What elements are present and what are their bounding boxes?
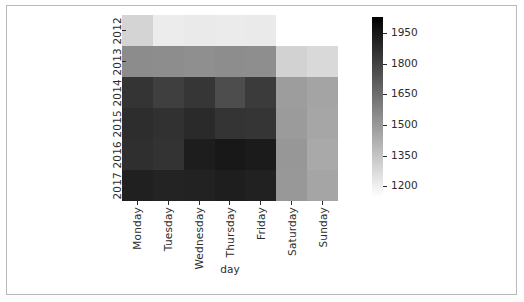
colorbar-tick-label: 1500	[391, 119, 418, 130]
colorbar-tick-label: 1200	[391, 180, 418, 191]
x-axis-tick-label: Wednesday	[194, 207, 205, 270]
heatmap-cell	[245, 15, 276, 46]
x-axis-tick-mark	[229, 201, 230, 205]
x-axis-title: day	[122, 263, 338, 275]
x-axis-tick-label: Friday	[256, 207, 267, 240]
x-axis-tick-label: Sunday	[317, 207, 328, 248]
x-axis-tick: Saturday	[276, 201, 307, 261]
y-axis-tick-label: 2017	[112, 172, 123, 200]
heatmap-cell	[122, 139, 153, 170]
colorbar-tick-mark	[383, 33, 387, 34]
heatmap-cell	[307, 139, 338, 170]
x-axis-tick-mark	[168, 201, 169, 205]
heatmap-cell	[153, 108, 184, 139]
colorbar-tick-label: 1950	[391, 27, 418, 38]
colorbar-gradient	[372, 17, 383, 197]
x-axis-tick-mark	[199, 201, 200, 205]
heatmap-cell	[153, 46, 184, 77]
heatmap-cell	[276, 46, 307, 77]
heatmap-cell	[122, 170, 153, 201]
heatmap-cell	[153, 77, 184, 108]
heatmap-cell	[307, 108, 338, 139]
heatmap-cell	[245, 139, 276, 170]
heatmap-cell	[307, 170, 338, 201]
x-axis-tick-label: Monday	[132, 207, 143, 250]
heatmap-cell	[276, 139, 307, 170]
colorbar-tick-label: 1650	[391, 88, 418, 99]
heatmap-grid	[122, 15, 338, 201]
heatmap-cell	[184, 170, 215, 201]
heatmap-cell	[184, 108, 215, 139]
heatmap-cell	[122, 77, 153, 108]
heatmap-cell	[276, 108, 307, 139]
heatmap-cell	[184, 139, 215, 170]
heatmap-cell	[245, 108, 276, 139]
x-axis-tick: Sunday	[307, 201, 338, 261]
y-axis-tick: 2015	[100, 108, 122, 139]
heatmap-cell	[153, 170, 184, 201]
heatmap-cell	[215, 108, 246, 139]
y-axis: 201220132014201520162017	[100, 15, 122, 201]
y-axis-tick-label: 2014	[112, 79, 123, 107]
colorbar-tick-mark	[383, 156, 387, 157]
y-axis-tick-mark	[122, 123, 126, 124]
x-axis: MondayTuesdayWednesdayThursdayFridaySatu…	[122, 201, 338, 261]
y-axis-tick-mark	[122, 30, 126, 31]
heatmap-cell	[153, 139, 184, 170]
y-axis-tick-mark	[122, 61, 126, 62]
x-axis-tick: Friday	[245, 201, 276, 261]
x-axis-tick-label: Saturday	[286, 207, 297, 256]
x-axis-tick: Tuesday	[153, 201, 184, 261]
heatmap-cell	[215, 170, 246, 201]
heatmap-cell	[215, 77, 246, 108]
y-axis-tick: 2014	[100, 77, 122, 108]
x-axis-tick-mark	[291, 201, 292, 205]
y-axis-tick: 2013	[100, 46, 122, 77]
colorbar-tick-mark	[383, 64, 387, 65]
heatmap-cell	[122, 108, 153, 139]
heatmap-cell	[245, 77, 276, 108]
x-axis-tick: Monday	[122, 201, 153, 261]
heatmap-cell	[276, 77, 307, 108]
heatmap-cell	[307, 46, 338, 77]
x-axis-tick-mark	[260, 201, 261, 205]
colorbar: 195018001650150013501200	[372, 17, 383, 197]
y-axis-tick-mark	[122, 92, 126, 93]
heatmap-cell	[245, 46, 276, 77]
y-axis-tick: 2017	[100, 170, 122, 201]
y-axis-tick: 2016	[100, 139, 122, 170]
heatmap-cell	[153, 15, 184, 46]
heatmap-cell	[184, 46, 215, 77]
x-axis-tick-label: Tuesday	[163, 207, 174, 251]
colorbar-tick-mark	[383, 186, 387, 187]
colorbar-tick-label: 1800	[391, 58, 418, 69]
x-axis-tick-label: Thursday	[225, 207, 236, 257]
figure-canvas: 201220132014201520162017 MondayTuesdayWe…	[0, 0, 524, 302]
heatmap-cell	[307, 77, 338, 108]
colorbar-tick-mark	[383, 125, 387, 126]
y-axis-tick-label: 2015	[112, 110, 123, 138]
y-axis-tick-mark	[122, 185, 126, 186]
x-axis-tick: Wednesday	[184, 201, 215, 261]
heatmap-cell	[276, 15, 307, 46]
heatmap-cell	[245, 170, 276, 201]
heatmap-cell	[215, 139, 246, 170]
heatmap-cell	[122, 15, 153, 46]
y-axis-tick-label: 2016	[112, 141, 123, 169]
colorbar-tick-mark	[383, 94, 387, 95]
x-axis-tick-mark	[137, 201, 138, 205]
y-axis-tick-label: 2013	[112, 48, 123, 76]
x-axis-tick-mark	[322, 201, 323, 205]
heatmap-cell	[307, 15, 338, 46]
heatmap-plot-area	[122, 15, 338, 201]
heatmap-cell	[122, 46, 153, 77]
y-axis-tick-label: 2012	[112, 17, 123, 45]
heatmap-cell	[215, 46, 246, 77]
colorbar-tick-label: 1350	[391, 150, 418, 161]
heatmap-cell	[184, 77, 215, 108]
y-axis-tick: 2012	[100, 15, 122, 46]
y-axis-tick-mark	[122, 154, 126, 155]
heatmap-cell	[276, 170, 307, 201]
heatmap-cell	[215, 15, 246, 46]
heatmap-cell	[184, 15, 215, 46]
